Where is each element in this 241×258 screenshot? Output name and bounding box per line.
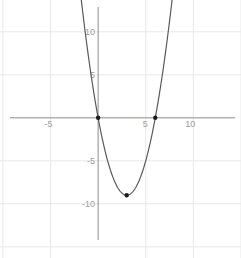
data-point — [124, 193, 128, 197]
x-tick-label: 5 — [143, 119, 148, 129]
parabola-chart-svg: -5510105-5-10 — [0, 0, 241, 258]
y-tick-label: -10 — [82, 199, 95, 209]
data-point — [96, 116, 100, 120]
x-tick-label: -5 — [44, 119, 52, 129]
data-point — [153, 116, 157, 120]
y-tick-label: 10 — [85, 27, 95, 37]
y-tick-label: -5 — [87, 156, 95, 166]
graph-canvas: -5510105-5-10 — [0, 0, 241, 258]
x-tick-label: 10 — [185, 119, 195, 129]
